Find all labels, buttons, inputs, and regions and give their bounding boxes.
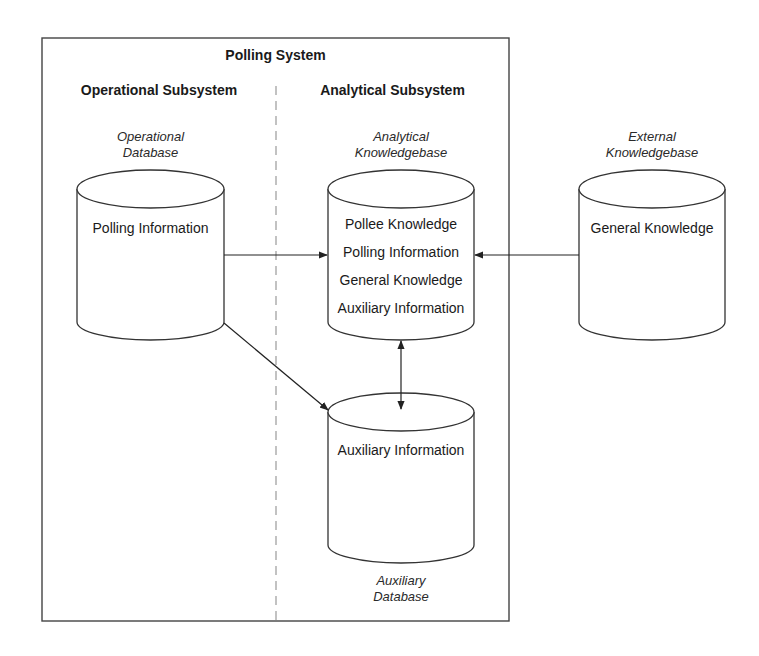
analytical-kb-item: Auxiliary Information: [328, 299, 474, 317]
diagram-canvas: [0, 0, 759, 656]
operational-database-item: Polling Information: [77, 219, 224, 237]
analytical-kb-item: Polling Information: [328, 243, 474, 261]
auxiliary-database-cylinder: [328, 393, 474, 563]
analytical-subsystem-title: Analytical Subsystem: [276, 82, 509, 98]
operational-database-cylinder: [77, 170, 224, 340]
external-knowledgebase-caption: External Knowledgebase: [579, 129, 725, 161]
analytical-kb-item: Pollee Knowledge: [328, 215, 474, 233]
external-kb-item: General Knowledge: [579, 219, 725, 237]
caption-line: Auxiliary: [328, 573, 474, 589]
auxiliary-database-caption: Auxiliary Database: [328, 573, 474, 605]
arrow-operational-to-auxiliary: [224, 323, 328, 410]
caption-line: External: [579, 129, 725, 145]
analytical-kb-item: General Knowledge: [328, 271, 474, 289]
caption-line: Knowledgebase: [328, 145, 474, 161]
system-title: Polling System: [42, 47, 509, 63]
caption-line: Database: [77, 145, 224, 161]
operational-database-caption: Operational Database: [77, 129, 224, 161]
auxiliary-db-item: Auxiliary Information: [328, 441, 474, 459]
caption-line: Operational: [77, 129, 224, 145]
caption-line: Knowledgebase: [579, 145, 725, 161]
operational-subsystem-title: Operational Subsystem: [42, 82, 276, 98]
external-knowledgebase-cylinder: [579, 170, 725, 340]
caption-line: Analytical: [328, 129, 474, 145]
analytical-knowledgebase-caption: Analytical Knowledgebase: [328, 129, 474, 161]
caption-line: Database: [328, 589, 474, 605]
